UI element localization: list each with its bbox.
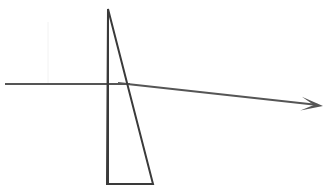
- ray-diagram-svg: [0, 0, 327, 192]
- ray-diagram-canvas: [0, 0, 327, 192]
- diagram-background: [0, 0, 327, 192]
